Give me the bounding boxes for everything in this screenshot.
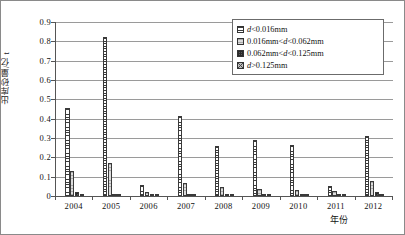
bar — [267, 194, 271, 196]
bar — [337, 194, 341, 196]
bar — [253, 140, 257, 196]
legend-item: 0.062mm<d<0.125mm — [237, 47, 379, 59]
x-tick-label: 2012 — [364, 201, 382, 211]
y-tick-label: 0.3 — [39, 133, 51, 143]
bar — [332, 191, 336, 196]
y-tick-label: 0.8 — [39, 36, 51, 46]
y-tick-mark — [51, 41, 55, 42]
bar — [230, 194, 234, 196]
legend-item: d<0.016mm — [237, 23, 379, 35]
bar — [304, 194, 308, 196]
bar — [112, 194, 116, 196]
y-tick-mark — [51, 157, 55, 158]
x-tick-label: 2007 — [177, 201, 195, 211]
chart-root: 出库砂量/亿 t 00.10.20.30.40.50.60.70.80.9 20… — [0, 0, 405, 235]
bar — [155, 194, 159, 196]
y-tick-label: 0.7 — [39, 56, 51, 66]
bar-group — [65, 22, 84, 196]
y-tick-mark — [51, 177, 55, 178]
bar — [225, 194, 229, 196]
bar — [145, 192, 149, 196]
y-tick-label: 0.9 — [39, 17, 51, 27]
y-tick-label: 0.4 — [39, 114, 51, 124]
bar — [365, 136, 369, 196]
bar — [257, 189, 261, 196]
bar — [117, 194, 121, 196]
bar — [65, 108, 69, 196]
legend-item: 0.016mm<d<0.062mm — [237, 35, 379, 47]
bar — [187, 194, 191, 196]
y-tick-label: 0.2 — [39, 152, 51, 162]
x-tick-label: 2010 — [289, 201, 307, 211]
bar — [375, 192, 379, 196]
bar-group — [140, 22, 159, 196]
bar — [328, 186, 332, 196]
x-tick-mark — [130, 196, 131, 200]
bar — [262, 194, 266, 196]
legend-label: 0.016mm<d<0.062mm — [247, 36, 324, 47]
legend-item: d>0.125mm — [237, 59, 379, 71]
y-tick-label: 0.5 — [39, 94, 51, 104]
bar — [370, 181, 374, 196]
y-tick-label: 0.6 — [39, 75, 51, 85]
x-tick-mark — [92, 196, 93, 200]
x-tick-label: 2011 — [327, 201, 345, 211]
bar — [220, 187, 224, 196]
bar-group — [103, 22, 122, 196]
y-tick-mark — [51, 119, 55, 120]
x-tick-mark — [355, 196, 356, 200]
x-tick-mark — [167, 196, 168, 200]
y-tick-mark — [51, 99, 55, 100]
bar-group — [178, 22, 197, 196]
legend-swatch-icon — [237, 50, 244, 57]
x-tick-mark — [205, 196, 206, 200]
y-tick-mark — [51, 196, 55, 197]
bar — [75, 192, 79, 196]
y-tick-mark — [51, 138, 55, 139]
x-tick-mark — [280, 196, 281, 200]
x-tick-mark — [55, 196, 56, 200]
bar — [300, 194, 304, 196]
bar — [80, 194, 84, 196]
y-axis-title: 出库砂量/亿 t — [2, 28, 16, 128]
bar — [295, 190, 299, 196]
x-tick-label: 2009 — [252, 201, 270, 211]
x-tick-mark — [317, 196, 318, 200]
bar — [70, 171, 74, 196]
x-tick-label: 2006 — [140, 201, 158, 211]
bar — [290, 145, 294, 196]
legend: d<0.016mm0.016mm<d<0.062mm0.062mm<d<0.12… — [232, 19, 384, 75]
bar — [140, 185, 144, 196]
y-tick-mark — [51, 61, 55, 62]
x-axis-title: 年份 — [330, 213, 348, 226]
legend-label: d<0.016mm — [247, 24, 287, 35]
bar — [192, 194, 196, 196]
bar — [103, 37, 107, 196]
bar — [183, 183, 187, 196]
y-axis-tick-labels: 00.10.20.30.40.50.60.70.80.9 — [20, 22, 53, 196]
x-tick-label: 2004 — [65, 201, 83, 211]
legend-swatch-icon — [237, 38, 244, 45]
x-tick-label: 2008 — [214, 201, 232, 211]
x-tick-mark — [242, 196, 243, 200]
bar — [108, 163, 112, 196]
legend-label: 0.062mm<d<0.125mm — [247, 48, 324, 59]
legend-swatch-icon — [237, 26, 244, 33]
x-tick-mark — [392, 196, 393, 200]
bar — [150, 194, 154, 196]
bar — [379, 194, 383, 196]
bar — [178, 116, 182, 196]
legend-swatch-icon — [237, 62, 244, 69]
y-tick-mark — [51, 80, 55, 81]
y-tick-mark — [51, 22, 55, 23]
y-tick-label: 0.1 — [39, 172, 51, 182]
bar — [342, 194, 346, 196]
bar — [215, 146, 219, 196]
x-tick-label: 2005 — [102, 201, 120, 211]
bar-group — [215, 22, 234, 196]
legend-label: d>0.125mm — [247, 60, 287, 71]
